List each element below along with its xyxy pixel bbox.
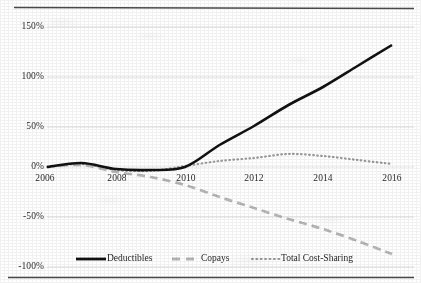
frame-top-rule: [14, 8, 414, 9]
x-axis-tick-2012: 2012: [231, 173, 277, 183]
legend-label-total-cost-sharing: Total Cost-Sharing: [281, 253, 353, 263]
x-axis-tick-2006: 2006: [22, 173, 68, 183]
y-axis-tick-50: 50%: [0, 121, 44, 131]
y-axis-tick-100: 100%: [0, 71, 44, 81]
y-axis-tick-minus100: -100%: [0, 261, 44, 271]
line-chart: 150% 100% 50% 0% -50% -100% 2006 2008 20…: [0, 0, 421, 283]
x-axis-tick-2008: 2008: [94, 173, 140, 183]
chart-frame: [8, 8, 414, 278]
y-axis-tick-0: 0%: [0, 161, 44, 171]
legend-label-deductibles: Deductibles: [107, 253, 152, 263]
chart-plot-area: [0, 0, 421, 283]
x-axis-tick-2010: 2010: [163, 173, 209, 183]
gridlines: [47, 27, 414, 267]
y-axis-tick-150: 150%: [0, 21, 44, 31]
legend-label-copays: Copays: [201, 253, 230, 263]
series-line-deductibles: [47, 45, 392, 170]
y-axis-tick-minus50: -50%: [0, 211, 44, 221]
x-axis-tick-2016: 2016: [369, 173, 415, 183]
x-axis-tick-2014: 2014: [300, 173, 346, 183]
